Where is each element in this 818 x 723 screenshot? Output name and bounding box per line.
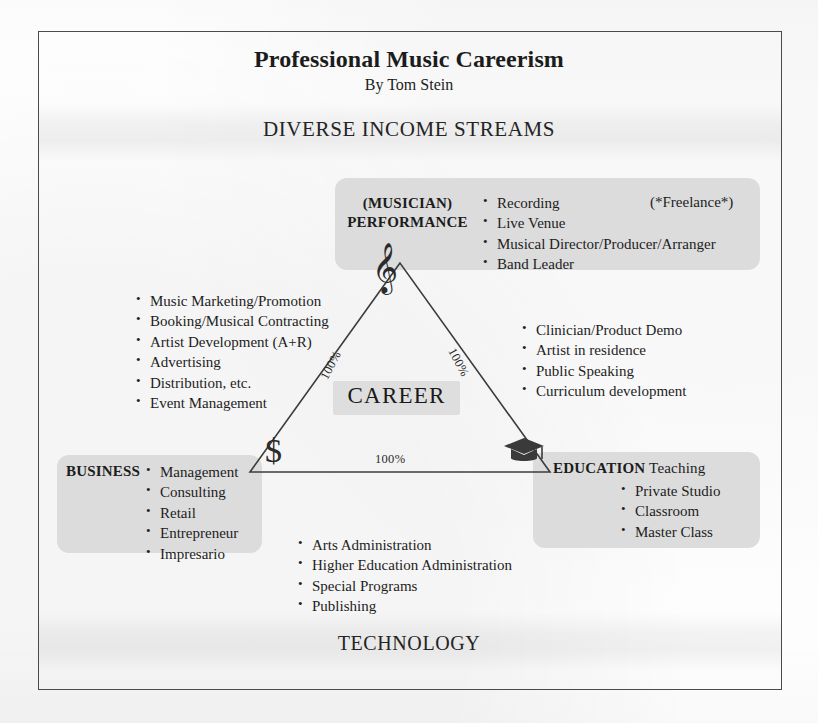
administration-item-list: Arts Administration Higher Education Adm…	[297, 535, 512, 617]
music-business-item-list: Music Marketing/Promotion Booking/Musica…	[135, 291, 329, 413]
education-outreach-item-list: Clinician/Product Demo Artist in residen…	[521, 320, 686, 402]
diverse-income-streams-header: DIVERSE INCOME STREAMS	[0, 117, 818, 142]
list-item: Public Speaking	[521, 361, 686, 381]
list-item: Private Studio	[620, 481, 720, 501]
graduation-cap-icon	[503, 436, 545, 466]
list-item: Distribution, etc.	[135, 373, 329, 393]
figure-page: Professional Music Careerism By Tom Stei…	[0, 0, 818, 723]
education-name-secondary: Teaching	[649, 460, 705, 476]
list-item: Arts Administration	[297, 535, 512, 555]
career-center-label: CAREER	[333, 383, 460, 409]
figure-title: Professional Music Careerism	[0, 46, 818, 73]
list-item: Publishing	[297, 596, 512, 616]
edge-percent-bottom: 100%	[375, 452, 405, 467]
list-item: Band Leader	[482, 254, 716, 274]
list-item: Retail	[145, 503, 238, 523]
list-item: Higher Education Administration	[297, 555, 512, 575]
technology-footer: TECHNOLOGY	[0, 632, 818, 655]
list-item: Curriculum development	[521, 381, 686, 401]
list-item: Event Management	[135, 393, 329, 413]
list-item: Recording	[482, 193, 716, 213]
list-item: Live Venue	[482, 213, 716, 233]
education-name: EDUCATION	[553, 460, 645, 476]
list-item: Booking/Musical Contracting	[135, 311, 329, 331]
list-item: Special Programs	[297, 576, 512, 596]
business-name: BUSINESS	[66, 463, 140, 480]
list-item: Entrepreneur	[145, 523, 238, 543]
list-item: Master Class	[620, 522, 720, 542]
list-item: Clinician/Product Demo	[521, 320, 686, 340]
education-title: EDUCATION Teaching	[553, 460, 705, 477]
dollar-sign-icon: $	[265, 434, 282, 468]
treble-clef-icon: 𝄞	[372, 246, 398, 290]
list-item: Artist Development (A+R)	[135, 332, 329, 352]
list-item: Musical Director/Producer/Arranger	[482, 234, 716, 254]
list-item: Classroom	[620, 501, 720, 521]
list-item: Music Marketing/Promotion	[135, 291, 329, 311]
performance-title: (MUSICIAN) PERFORMANCE	[345, 194, 470, 232]
list-item: Consulting	[145, 482, 238, 502]
list-item: Artist in residence	[521, 340, 686, 360]
business-item-list: Management Consulting Retail Entrepreneu…	[145, 462, 238, 564]
education-item-list: Private Studio Classroom Master Class	[620, 481, 720, 542]
list-item: Impresario	[145, 544, 238, 564]
performance-name: PERFORMANCE	[345, 213, 470, 232]
performance-item-list: Recording Live Venue Musical Director/Pr…	[482, 193, 716, 275]
list-item: Advertising	[135, 352, 329, 372]
list-item: Management	[145, 462, 238, 482]
figure-byline: By Tom Stein	[0, 76, 818, 94]
performance-subtitle: (MUSICIAN)	[345, 194, 470, 213]
